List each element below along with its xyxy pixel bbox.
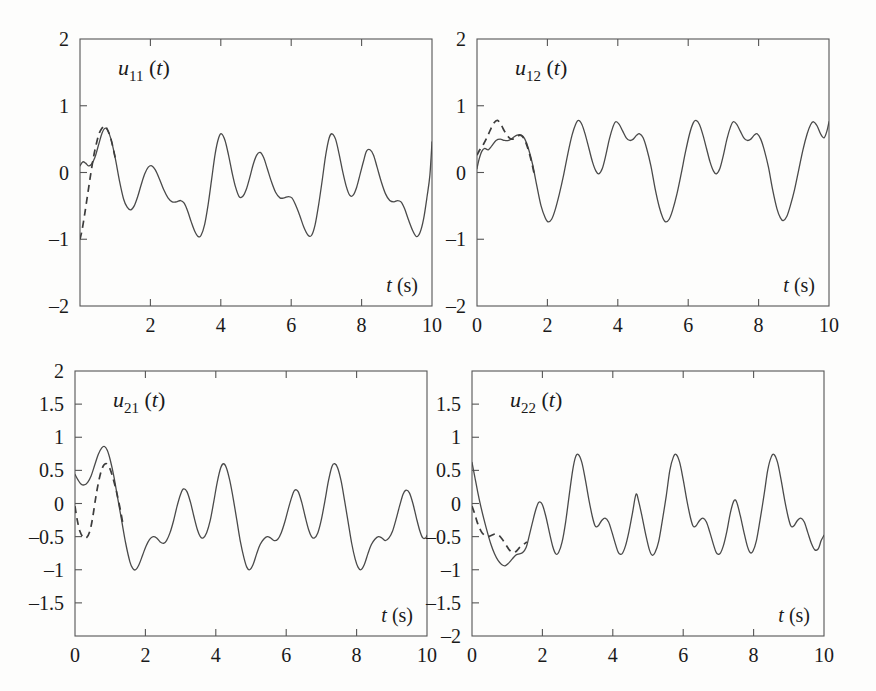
y-tick-label: –0.5 [28, 526, 64, 548]
y-tick-label: 2 [456, 28, 466, 50]
y-tick-label: 1.5 [39, 393, 64, 415]
y-tick-label: 1.5 [436, 393, 461, 415]
x-tick-label: 0 [472, 314, 482, 336]
title-subscript: 22 [521, 400, 536, 416]
title-subscript: 11 [129, 68, 143, 84]
chart-panel-u11: 246810–2–1012u11 (t)t (s) [18, 29, 446, 358]
series-line-estimate [75, 464, 123, 539]
x-tick-label: 2 [542, 314, 552, 336]
y-tick-label: –1 [440, 559, 461, 581]
series-line-actual [75, 446, 427, 570]
x-tick-label: 6 [286, 314, 296, 336]
title-subscript: 12 [526, 68, 541, 84]
y-tick-label: 2 [59, 28, 69, 50]
title-base: u [515, 55, 526, 80]
y-tick-label: 0 [54, 493, 64, 515]
panel-title-u22: u22 (t) [510, 387, 562, 416]
x-tick-label: 2 [537, 644, 547, 666]
chart-panel-u22: 0246810–2–1.5–1–0.500.511.5u22 (t)t (s) [410, 361, 838, 688]
y-tick-label: 2 [54, 360, 64, 382]
x-tick-label: 6 [678, 644, 688, 666]
y-tick-label: 1 [54, 426, 64, 448]
x-axis-label-u22: t (s) [778, 604, 810, 627]
title-base: u [113, 387, 124, 412]
panel-title-u21: u21 (t) [113, 387, 165, 416]
x-axis-label-u12: t (s) [783, 274, 815, 297]
x-tick-label: 10 [819, 314, 839, 336]
y-tick-label: –1 [48, 228, 69, 250]
x-tick-label: 4 [216, 314, 226, 336]
series-line-actual [80, 128, 432, 237]
y-tick-label: 0.5 [39, 459, 64, 481]
y-tick-label: 0 [456, 162, 466, 184]
title-subscript: 21 [124, 400, 139, 416]
title-base: u [510, 387, 521, 412]
x-tick-label: 6 [683, 314, 693, 336]
panel-title-u12: u12 (t) [515, 55, 567, 84]
y-tick-label: –1.5 [425, 592, 461, 614]
x-tick-label: 2 [145, 314, 155, 336]
y-tick-label: 1 [59, 95, 69, 117]
y-tick-label: 0 [451, 493, 461, 515]
chart-panel-u21: 0246810–1.5–1–0.500.511.52u21 (t)t (s) [13, 361, 441, 688]
y-tick-label: –2 [445, 295, 466, 317]
y-tick-label: 1 [451, 426, 461, 448]
x-tick-label: 8 [357, 314, 367, 336]
x-tick-label: 4 [608, 644, 618, 666]
y-tick-label: –0.5 [425, 526, 461, 548]
y-tick-label: 0 [59, 162, 69, 184]
figure-container: 246810–2–1012u11 (t)t (s)0246810–2–1012u… [0, 0, 876, 691]
x-tick-label: 8 [754, 314, 764, 336]
x-tick-label: 0 [467, 644, 477, 666]
y-tick-label: –1 [43, 559, 64, 581]
x-tick-label: 2 [140, 644, 150, 666]
x-tick-label: 10 [814, 644, 834, 666]
series-line-actual [472, 454, 824, 566]
x-axis-label-u11: t (s) [386, 274, 418, 297]
x-axis-label-u21: t (s) [381, 604, 413, 627]
x-tick-label: 4 [211, 644, 221, 666]
series-line-actual [477, 120, 829, 222]
panel-title-u11: u11 (t) [118, 55, 170, 84]
title-base: u [118, 55, 129, 80]
x-tick-label: 0 [70, 644, 80, 666]
y-tick-label: –1.5 [28, 592, 64, 614]
x-tick-label: 4 [613, 314, 623, 336]
series-line-estimate [472, 506, 527, 552]
y-tick-label: –2 [48, 295, 69, 317]
x-tick-label: 8 [352, 644, 362, 666]
y-tick-label: 0.5 [436, 459, 461, 481]
chart-panel-u12: 0246810–2–1012u12 (t)t (s) [415, 29, 843, 358]
series-line-estimate [80, 126, 115, 239]
x-tick-label: 8 [749, 644, 759, 666]
y-tick-label: –2 [440, 625, 461, 647]
x-tick-label: 6 [281, 644, 291, 666]
y-tick-label: 1 [456, 95, 466, 117]
y-tick-label: –1 [445, 228, 466, 250]
